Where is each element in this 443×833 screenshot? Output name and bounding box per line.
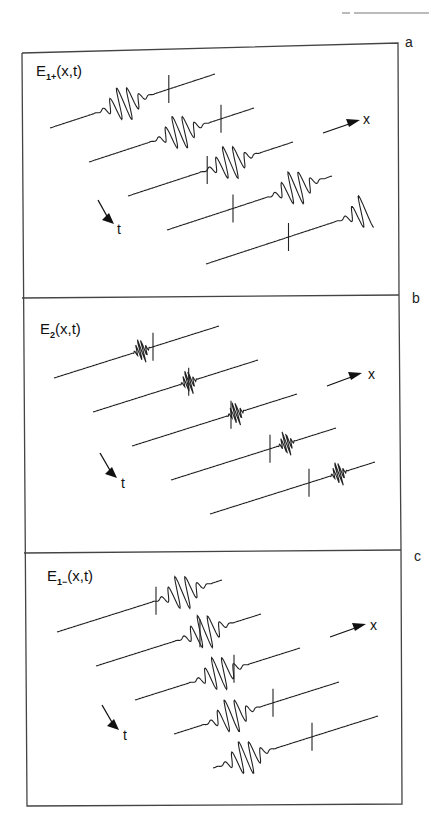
wave-trace [174,682,339,734]
x-axis-arrowhead-icon [352,623,366,631]
panel-c-x-label: x [370,617,377,633]
panel-a-title: E1+(x,t) [36,62,82,82]
figure-canvas [0,0,443,833]
axis-arrows [98,119,366,730]
panel-a-t-label: t [117,221,121,237]
t-axis-arrowhead-icon [102,213,114,224]
panel-c-label: c [414,548,421,564]
wave-trace [128,142,293,196]
panel-b-t-label: t [121,475,125,491]
t-axis-arrow-icon [100,453,111,472]
wave-trace [210,462,375,514]
x-axis-arrow-icon [327,376,354,386]
wave-trace [171,428,336,480]
panel-frames [22,43,402,806]
t-axis-arrow-icon [102,705,113,724]
panel-c-title: E1−(x,t) [47,567,93,587]
wave-traces [50,74,378,773]
panel-c-t-label: t [123,727,127,743]
panel-b-x-label: x [368,366,375,382]
x-axis-arrow-icon [323,123,352,133]
wave-trace [93,360,258,412]
divider-bc [24,550,401,553]
figure-border [22,43,402,806]
t-axis-arrowhead-icon [105,467,117,478]
wave-trace [132,394,297,446]
wave-trace [50,74,215,128]
divider-ab [22,295,399,298]
wave-trace [206,196,374,264]
t-axis-arrowhead-icon [107,719,119,730]
x-axis-arrowhead-icon [346,119,360,127]
panel-b-title: E2(x,t) [40,320,81,340]
wave-trace [213,716,378,773]
x-axis-arrowhead-icon [348,372,362,380]
t-axis-arrow-icon [98,200,108,218]
wave-trace [96,614,261,666]
wave-trace [167,172,332,230]
wave-trace [89,108,254,162]
panel-a-x-label: x [363,111,370,127]
panel-a-label: a [405,34,413,50]
wave-trace [135,648,300,700]
x-axis-arrow-icon [330,627,358,637]
panel-b-label: b [412,290,420,306]
